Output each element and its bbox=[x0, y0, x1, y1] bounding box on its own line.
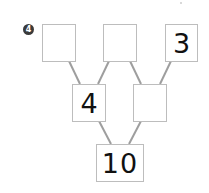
middle-box-2[interactable] bbox=[133, 84, 167, 122]
bottom-box[interactable]: 10 bbox=[96, 144, 144, 182]
problem-number-badge: 4 bbox=[23, 24, 34, 35]
top-box-2[interactable] bbox=[103, 24, 137, 62]
top-box-3[interactable]: 3 bbox=[165, 24, 198, 62]
speck bbox=[180, 2, 182, 4]
top-box-1[interactable] bbox=[42, 24, 76, 62]
middle-box-1[interactable]: 4 bbox=[72, 84, 106, 122]
